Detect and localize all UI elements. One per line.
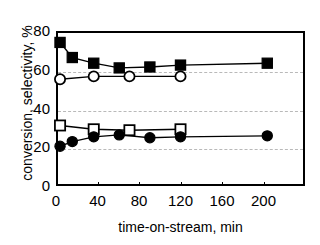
chart-figure: 020406080 04080120160200 time-on-stream,… [0, 0, 320, 245]
marker-open-circle [124, 71, 134, 81]
marker-filled-circle [114, 130, 124, 140]
x-tickmark-0 [56, 182, 57, 186]
x-axis-title: time-on-stream, min [56, 219, 305, 235]
x-tick-label-120: 120 [158, 193, 204, 208]
x-tick-label-200: 200 [241, 193, 287, 208]
data-series-layer [58, 33, 303, 184]
series-line-open-circle [60, 76, 180, 79]
marker-filled-circle [145, 133, 155, 143]
x-tick-label-0: 0 [33, 193, 79, 208]
marker-filled-circle [67, 136, 77, 146]
marker-filled-circle [55, 141, 65, 151]
x-tick-label-40: 40 [75, 193, 121, 208]
x-tick-label-80: 80 [116, 193, 162, 208]
series-filled-square [55, 37, 272, 73]
marker-open-square [55, 120, 65, 130]
marker-filled-square [175, 60, 185, 70]
marker-open-circle [89, 71, 99, 81]
marker-filled-square [89, 58, 99, 68]
x-tickmark-160 [222, 182, 223, 186]
x-tickmark-40 [98, 182, 99, 186]
marker-open-square [124, 125, 134, 135]
marker-filled-square [55, 37, 65, 47]
marker-open-circle [55, 74, 65, 84]
marker-filled-circle [89, 132, 99, 142]
marker-filled-square [67, 52, 77, 62]
series-filled-circle [55, 130, 272, 151]
x-tickmark-200 [264, 182, 265, 186]
marker-open-circle [175, 71, 185, 81]
y-axis-title: conversion, selectivity, % [19, 13, 35, 193]
x-tickmark-120 [181, 182, 182, 186]
marker-filled-square [262, 58, 272, 68]
plot-area [56, 31, 305, 186]
x-tickmark-80 [139, 182, 140, 186]
marker-filled-circle [262, 131, 272, 141]
marker-filled-square [145, 62, 155, 72]
marker-filled-square [114, 63, 124, 73]
x-tick-label-160: 160 [199, 193, 245, 208]
marker-filled-circle [175, 132, 185, 142]
